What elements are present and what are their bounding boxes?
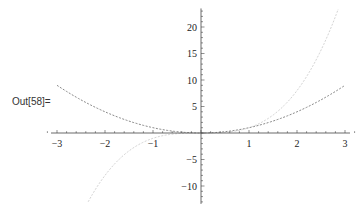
y-tick-label: 5 bbox=[192, 101, 197, 112]
y-tick-label: −5 bbox=[186, 154, 197, 165]
x-tick-label: −2 bbox=[100, 138, 111, 149]
y-tick-label: 10 bbox=[187, 75, 197, 86]
series-2-line bbox=[88, 9, 338, 202]
y-tick-label: 20 bbox=[187, 22, 197, 33]
x-tick-label: 1 bbox=[247, 138, 252, 149]
x-tick-label: 2 bbox=[295, 138, 300, 149]
y-tick-label: 15 bbox=[187, 48, 197, 59]
x-tick-label: −3 bbox=[52, 138, 63, 149]
plot-area: −3−2−1123−10−55101520 bbox=[0, 0, 358, 214]
x-tick-label: −1 bbox=[148, 138, 159, 149]
y-tick-label: −10 bbox=[181, 181, 197, 192]
x-tick-label: 3 bbox=[343, 138, 348, 149]
